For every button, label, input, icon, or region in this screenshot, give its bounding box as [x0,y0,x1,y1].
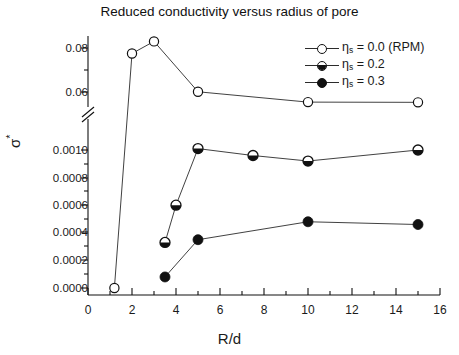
series-line [165,149,418,243]
data-point [303,217,313,227]
data-point [303,98,312,107]
data-point [193,87,202,96]
data-point [171,200,181,210]
chart-figure: Reduced conductivity versus radius of po… [0,0,459,355]
data-point [413,98,422,107]
legend-label-eta-03: ηs = 0.3 [342,73,385,93]
data-point [413,220,423,230]
legend-item-eta-02: ηs = 0.2 [305,57,424,74]
data-point [413,145,423,155]
legend-item-eta-0: ηs = 0.0 (RPM) [305,40,424,57]
half-filled-circle-marker-icon [305,59,339,73]
data-point [160,272,170,282]
data-point [127,49,136,58]
data-point [248,151,258,161]
series-line [165,222,418,277]
data-point [160,237,170,247]
open-circle-marker-icon [305,42,339,56]
filled-circle-marker-icon [305,76,339,90]
data-point [110,283,119,292]
legend-item-eta-03: ηs = 0.3 [305,74,424,91]
data-point [303,156,313,166]
data-point [193,235,203,245]
chart-legend: ηs = 0.0 (RPM) ηs = 0.2 ηs = 0.3 [305,40,424,91]
data-point [193,144,203,154]
data-point [149,37,158,46]
